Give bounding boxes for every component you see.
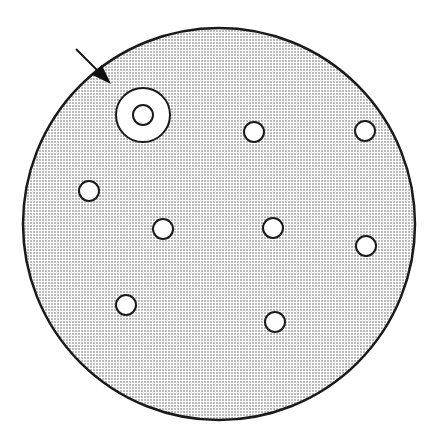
dish-circle <box>23 28 415 420</box>
hole <box>244 122 264 142</box>
hole <box>116 295 136 315</box>
target-inner-ring <box>133 105 153 125</box>
hole <box>153 219 173 239</box>
target-well <box>116 88 170 142</box>
hole <box>355 121 375 141</box>
hole <box>79 181 99 201</box>
dish <box>23 28 415 420</box>
petri-dish-diagram <box>0 0 434 445</box>
hole <box>356 236 376 256</box>
diagram-canvas <box>0 0 434 445</box>
hole <box>263 218 283 238</box>
arrow-shaft <box>76 49 97 70</box>
hole <box>265 312 285 332</box>
